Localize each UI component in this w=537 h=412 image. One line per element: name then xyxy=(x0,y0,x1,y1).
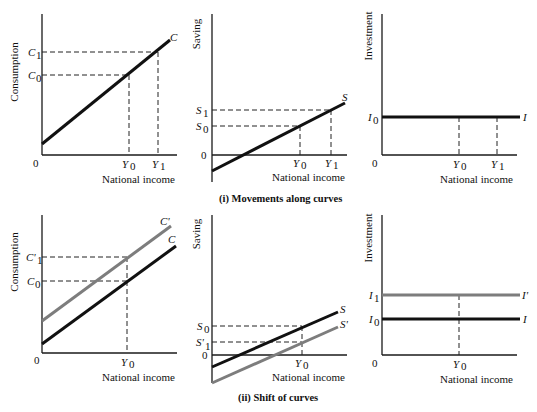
svg-text:Y: Y xyxy=(152,158,160,170)
y-axis-title: Consumption xyxy=(8,42,20,102)
svg-text:S: S xyxy=(197,320,203,332)
tick-y0: Y 0 xyxy=(453,158,467,172)
origin-label: 0 xyxy=(34,354,40,366)
svg-text:Y: Y xyxy=(121,356,129,368)
svg-text:S: S xyxy=(196,104,202,116)
tick-i0: I 0 xyxy=(368,313,380,328)
origin-label: 0 xyxy=(372,357,378,369)
curve-label-c: C xyxy=(168,233,176,245)
svg-text:1: 1 xyxy=(36,49,42,61)
zero-label: 0 xyxy=(201,149,207,161)
svg-text:C: C xyxy=(27,275,35,287)
tick-y1: Y 1 xyxy=(491,158,505,172)
svg-text:0: 0 xyxy=(373,114,379,126)
svg-text:Y: Y xyxy=(295,357,303,369)
zero-label: 0 xyxy=(202,349,208,361)
svg-text:1: 1 xyxy=(203,107,209,119)
svg-text:Y: Y xyxy=(122,158,130,170)
tick-y1: Y 1 xyxy=(325,157,339,171)
tick-c1: C 1 xyxy=(28,46,42,61)
y-axis-title: Saving xyxy=(190,218,202,249)
curve-c xyxy=(42,40,170,144)
curve-c xyxy=(42,246,176,344)
origin-label: 0 xyxy=(33,157,39,169)
svg-text:C: C xyxy=(28,46,36,58)
panel-consumption-shift: Consumption C' C C' 1 C 0 0 Y 0 National… xyxy=(8,215,177,383)
svg-text:0: 0 xyxy=(129,358,135,370)
tick-c-prime-1: C' 1 xyxy=(26,251,43,266)
x-axis-title: National income xyxy=(102,173,175,185)
svg-text:Y: Y xyxy=(453,158,461,170)
svg-text:Y: Y xyxy=(453,358,461,370)
svg-text:0: 0 xyxy=(204,323,210,335)
x-axis-title: National income xyxy=(272,371,345,383)
svg-text:1: 1 xyxy=(333,159,339,171)
y-axis-title: Investment xyxy=(362,214,374,263)
svg-text:0: 0 xyxy=(36,72,42,84)
svg-text:C': C' xyxy=(26,251,36,263)
tick-i1: I 1 xyxy=(368,289,380,304)
curve-label-s-prime: S' xyxy=(340,318,349,330)
svg-text:0: 0 xyxy=(303,359,309,371)
diagram-canvas: Consumption C C 1 C 0 0 Y 0 Y 1 National… xyxy=(0,0,537,412)
svg-text:S: S xyxy=(196,120,202,132)
tick-y0: Y 0 xyxy=(121,356,135,370)
curve-label-i: I xyxy=(522,111,528,123)
tick-i0: I 0 xyxy=(367,111,379,126)
tick-s1: S 1 xyxy=(196,104,209,119)
curve-c-prime xyxy=(42,226,171,321)
svg-text:0: 0 xyxy=(374,316,380,328)
tick-c0: C 0 xyxy=(28,69,42,84)
svg-text:1: 1 xyxy=(374,292,380,304)
svg-text:Y: Y xyxy=(293,157,301,169)
svg-text:0: 0 xyxy=(130,160,136,172)
x-axis-title: National income xyxy=(272,171,345,183)
svg-text:0: 0 xyxy=(461,160,467,172)
svg-text:0: 0 xyxy=(301,159,307,171)
svg-text:Y: Y xyxy=(491,158,499,170)
svg-text:0: 0 xyxy=(203,123,209,135)
curve-s xyxy=(212,312,338,367)
svg-text:1: 1 xyxy=(37,254,43,266)
panel-consumption-movement: Consumption C C 1 C 0 0 Y 0 Y 1 National… xyxy=(8,14,178,185)
panel-saving-shift: Saving S S' S 0 S' 1 0 Y 0 National inco… xyxy=(190,215,349,404)
curve-label-i-prime: I' xyxy=(521,289,529,301)
tick-c0: C 0 xyxy=(27,275,41,290)
curve-label-c-prime: C' xyxy=(160,215,170,227)
tick-s0: S 0 xyxy=(196,120,209,135)
tick-y0: Y 0 xyxy=(122,158,136,172)
x-axis-title: National income xyxy=(102,371,175,383)
curve-label-s: S xyxy=(342,91,348,103)
tick-y0: Y 0 xyxy=(293,157,307,171)
y-axis-title: Consumption xyxy=(8,232,20,292)
panel-saving-movement: Saving S S 1 S 0 0 Y 0 Y 1 National inco… xyxy=(190,14,348,205)
x-axis-title: National income xyxy=(440,373,513,385)
y-axis-title: Investment xyxy=(362,12,374,61)
curve-label-c: C xyxy=(170,31,178,43)
x-axis-title: National income xyxy=(440,173,513,185)
svg-text:C: C xyxy=(28,69,36,81)
svg-text:1: 1 xyxy=(160,160,166,172)
svg-text:0: 0 xyxy=(461,360,467,372)
tick-y1: Y 1 xyxy=(152,158,166,172)
svg-text:S': S' xyxy=(196,336,205,348)
svg-text:0: 0 xyxy=(35,278,41,290)
y-axis-title: Saving xyxy=(190,18,202,49)
panel-investment-movement: Investment I I 0 0 Y 0 Y 1 National inco… xyxy=(362,12,528,185)
caption-shift: (ii) Shift of curves xyxy=(238,392,318,404)
curve-label-i: I xyxy=(522,313,528,325)
svg-text:1: 1 xyxy=(499,160,505,172)
curve-label-s: S xyxy=(340,303,346,315)
svg-text:Y: Y xyxy=(325,157,333,169)
panel-investment-shift: Investment I' I I 1 I 0 0 Y 0 National i… xyxy=(362,214,529,385)
tick-y0: Y 0 xyxy=(453,358,467,372)
origin-label: 0 xyxy=(372,157,378,169)
caption-movements: (i) Movements along curves xyxy=(219,193,342,205)
tick-s0: S 0 xyxy=(197,320,210,335)
tick-y0: Y 0 xyxy=(295,357,309,371)
